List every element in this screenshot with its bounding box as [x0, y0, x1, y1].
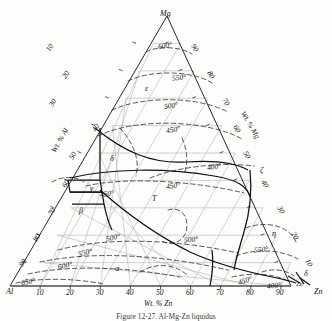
phase-label-zn-inset: Zn — [296, 281, 303, 288]
tick-bottom-60: 60 — [186, 289, 194, 297]
isotherm-label-500-lower-right: 500° — [184, 235, 199, 244]
isotherm-label-550-top: 550° — [172, 73, 187, 82]
isotherm-label-550-right: 550° — [254, 245, 269, 254]
figure-caption: Figure 12-27. Al-Mg-Zn liquidus — [0, 312, 332, 321]
phase-label-alpha: α — [115, 265, 119, 273]
phase-label-beta: β — [79, 207, 83, 215]
phase-label-zeta: ζ — [260, 167, 263, 175]
tick-bottom-40: 40 — [126, 289, 134, 297]
tick-bottom-10: 10 — [36, 289, 44, 297]
phase-label-gamma: γ — [90, 185, 93, 193]
axis-title-zn: Wt. % Zn — [144, 300, 172, 308]
tick-bottom-90: 90 — [276, 289, 284, 297]
phase-label-t: T — [152, 195, 156, 203]
tick-bottom-20: 20 — [66, 289, 74, 297]
tick-bottom-30: 30 — [96, 289, 104, 297]
isotherm-label-400-lower-right: 400° — [267, 281, 282, 290]
isotherm-label-600-top: 600° — [158, 41, 173, 50]
isotherm-label-500-upper: 500° — [164, 101, 179, 110]
corner-label-zn: Zn — [314, 288, 322, 296]
phase-label-epsilon: ε — [145, 85, 148, 93]
phase-label-delta-zn: δ — [304, 270, 308, 278]
tick-bottom-80: 80 — [246, 289, 254, 297]
corner-label-mg: Mg — [160, 10, 171, 18]
phase-label-eta: η — [272, 230, 276, 238]
tick-marks — [23, 42, 281, 290]
isotherm-label-450-left: 450° — [100, 189, 115, 198]
phase-label-delta: δ — [110, 155, 114, 163]
isotherm-label-450-mid: 450° — [166, 181, 181, 190]
isotherm-label-400-right: 400° — [207, 162, 222, 171]
tick-bottom-50: 50 — [156, 289, 164, 297]
corner-label-al: Al — [6, 288, 13, 296]
tick-bottom-70: 70 — [216, 289, 224, 297]
